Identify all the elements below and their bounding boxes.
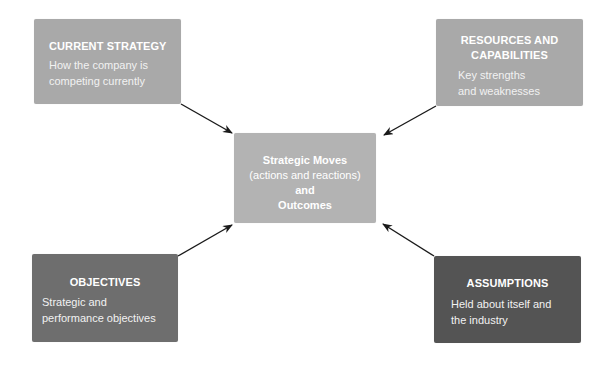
assumptions-desc: Held about itself and the industry — [451, 296, 551, 328]
strategic-moves-box: Strategic Moves (actions and reactions) … — [234, 133, 376, 223]
desc-line: and weaknesses — [458, 83, 540, 99]
title-line: RESOURCES AND — [436, 33, 583, 48]
assumptions-box: ASSUMPTIONS Held about itself and the in… — [434, 256, 581, 343]
arrow-resources-to-center — [384, 106, 436, 135]
desc-line: Strategic and — [42, 294, 156, 310]
desc-line: Held about itself and — [451, 296, 551, 312]
desc-line: competing currently — [49, 73, 148, 89]
desc-line: the industry — [451, 312, 551, 328]
center-line: Outcomes — [234, 198, 376, 213]
current-strategy-title: CURRENT STRATEGY — [49, 40, 167, 52]
current-strategy-desc: How the company is competing currently — [49, 57, 148, 89]
current-strategy-box: CURRENT STRATEGY How the company is comp… — [34, 19, 181, 104]
arrow-objectives-to-center — [178, 225, 232, 256]
desc-line: Key strengths — [458, 67, 540, 83]
desc-line: How the company is — [49, 57, 148, 73]
center-line: (actions and reactions) — [234, 168, 376, 183]
objectives-title: OBJECTIVES — [32, 276, 178, 288]
center-line: and — [234, 183, 376, 198]
resources-desc: Key strengths and weaknesses — [458, 67, 540, 99]
arrow-current-strategy-to-center — [181, 104, 232, 133]
strategic-moves-text: Strategic Moves (actions and reactions) … — [234, 153, 376, 213]
desc-line: performance objectives — [42, 310, 156, 326]
objectives-desc: Strategic and performance objectives — [42, 294, 156, 326]
resources-capabilities-box: RESOURCES AND CAPABILITIES Key strengths… — [436, 19, 583, 106]
title-line: CAPABILITIES — [436, 48, 583, 63]
assumptions-title: ASSUMPTIONS — [434, 277, 581, 289]
objectives-box: OBJECTIVES Strategic and performance obj… — [32, 254, 178, 342]
center-line: Strategic Moves — [234, 153, 376, 168]
arrow-assumptions-to-center — [383, 224, 434, 256]
resources-title: RESOURCES AND CAPABILITIES — [436, 33, 583, 63]
